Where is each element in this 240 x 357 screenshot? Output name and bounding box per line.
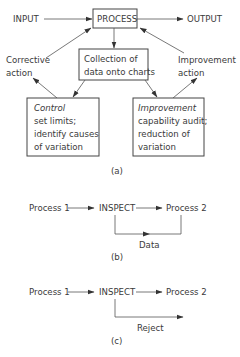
collection-to-improvement-arrow	[145, 80, 157, 97]
input-label: INPUT	[13, 14, 39, 24]
diagram-b: Process 1 INSPECT Process 2 Data (b)	[29, 203, 207, 262]
control-line2: identify causes	[34, 129, 99, 139]
b-data-loop-arrowhead	[143, 232, 150, 237]
collection-line2: data onto charts	[84, 67, 155, 77]
control-to-corrective-arrow	[33, 78, 57, 98]
control-line1: set limits;	[34, 116, 76, 126]
c-inspect-label: INSPECT	[99, 287, 136, 297]
c-process1-label: Process 1	[29, 287, 70, 297]
b-data-label: Data	[139, 240, 160, 250]
improvement-to-action-arrow	[173, 78, 197, 98]
diagram-a: INPUT PROCESS OUTPUT Collection of data …	[6, 9, 236, 176]
improvement-title: Improvement	[138, 103, 197, 113]
collection-line1: Collection of	[84, 54, 138, 64]
caption-b: (b)	[111, 252, 123, 262]
b-process1-label: Process 1	[29, 203, 70, 213]
control-line3: of variation	[34, 142, 83, 152]
improvement-action-line2: action	[178, 68, 204, 78]
diagram-svg: INPUT PROCESS OUTPUT Collection of data …	[0, 0, 240, 357]
c-reject-branch-arrow	[115, 299, 183, 317]
b-process2-label: Process 2	[166, 203, 207, 213]
diagram-c: Process 1 INSPECT Process 2 Reject (c)	[29, 287, 207, 346]
collection-to-control-arrow	[73, 80, 85, 97]
improvement-line1: capability audit;	[138, 116, 207, 126]
control-title: Control	[34, 103, 66, 113]
output-label: OUTPUT	[187, 14, 223, 24]
corrective-action-line1: Corrective	[6, 55, 50, 65]
process-control-diagrams: INPUT PROCESS OUTPUT Collection of data …	[0, 0, 240, 357]
improvement-action-line1: Improvement	[178, 55, 236, 65]
improvement-line3: variation	[138, 142, 176, 152]
improvement-line2: reduction of	[138, 129, 191, 139]
process-label: PROCESS	[97, 14, 137, 24]
c-reject-label: Reject	[137, 323, 164, 333]
c-process2-label: Process 2	[166, 287, 207, 297]
b-inspect-label: INSPECT	[99, 203, 136, 213]
corrective-action-line2: action	[6, 68, 32, 78]
b-data-loop-line	[115, 215, 181, 234]
caption-a: (a)	[111, 166, 123, 176]
caption-c: (c)	[111, 336, 122, 346]
